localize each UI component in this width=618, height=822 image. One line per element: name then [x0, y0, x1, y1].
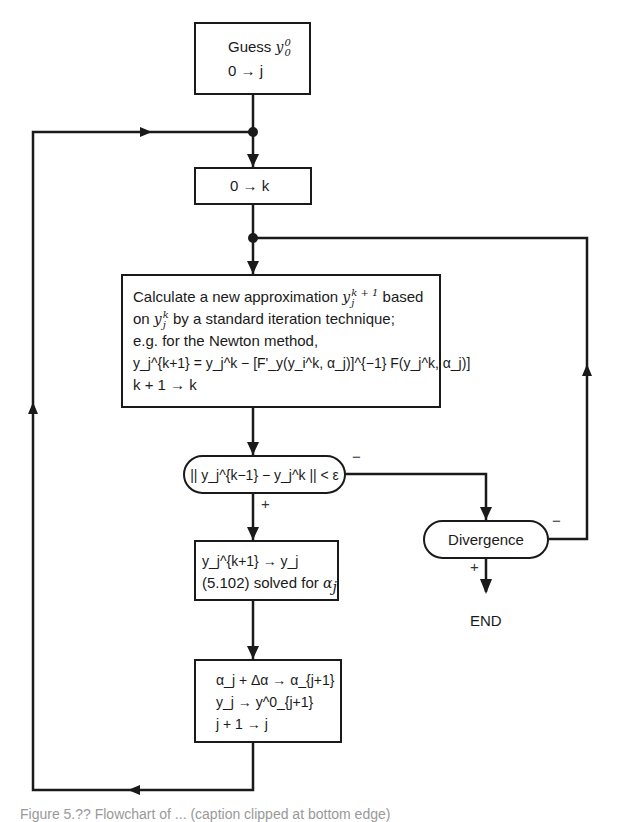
update-y-box: y_j^{k+1} → y_j (5.102) solved for αj [194, 540, 339, 601]
init-k-box: 0 → k [194, 167, 312, 205]
figure-caption: Figure 5.?? Flowchart of ... (caption cl… [20, 806, 390, 822]
calculate-newton-formula: y_j^{k+1} = y_j^k − [F'_y(y_i^k, α_j)]^{… [133, 354, 470, 372]
calc-l1-sup: k + 1 [351, 288, 378, 298]
update-alpha-line-2: y_j → y^0_{j+1} [216, 693, 313, 711]
divergence-yes-label: + [470, 558, 479, 575]
calculate-line-2: on ykj by a standard iteration technique… [133, 310, 395, 330]
calculate-line-5: k + 1 → k [133, 376, 197, 394]
end-label: END [470, 612, 502, 630]
convergence-no-label: − [352, 448, 361, 465]
calc-l2-head: on [133, 310, 150, 327]
start-line-2: 0 → j [228, 62, 263, 80]
update-alpha-line-3: j + 1 → j [216, 715, 268, 733]
calculate-box: Calculate a new approximation yk + 1j ba… [121, 274, 441, 408]
calculate-line-1: Calculate a new approximation yk + 1j ba… [133, 288, 423, 308]
update-alpha-box: α_j + Δα → α_{j+1} y_j → y^0_{j+1} j + 1… [194, 659, 342, 743]
update-y-line-1: y_j^{k+1} → y_j [202, 552, 298, 570]
update-y-line-2: (5.102) solved for αj [202, 574, 337, 592]
start-line-1: Guess y00 [228, 38, 291, 58]
update-y-alpha-sub: j [332, 579, 336, 595]
divergence-text: Divergence [448, 531, 524, 549]
init-k-text: 0 → k [230, 177, 269, 195]
calculate-line-3: e.g. for the Newton method, [133, 332, 318, 350]
start-sub: 0 [284, 48, 290, 58]
convergence-yes-label: + [261, 495, 270, 512]
start-guess-text: Guess [228, 38, 271, 55]
divergence-test: Divergence [423, 520, 549, 559]
calc-l1-var: y [342, 289, 350, 305]
start-box: Guess y00 0 → j [194, 22, 311, 95]
calc-l2-sub: j [163, 320, 169, 330]
calc-l2-var: y [154, 311, 162, 327]
update-y-solved-text: (5.102) solved for [202, 574, 319, 591]
convergence-test-text: || y_j^{k−1} − y_j^k || < ε [190, 466, 339, 484]
convergence-test: || y_j^{k−1} − y_j^k || < ε [183, 455, 346, 494]
start-var: y [276, 39, 284, 55]
calc-l1-text: Calculate a new approximation [133, 288, 338, 305]
calc-l1-sub: j [351, 298, 378, 308]
calc-l1-tail: based [383, 288, 424, 305]
divergence-no-label: − [552, 512, 561, 529]
calc-l2-tail: by a standard iteration technique; [173, 310, 395, 327]
update-y-alpha: α [323, 575, 332, 591]
update-alpha-line-1: α_j + Δα → α_{j+1} [216, 671, 334, 689]
